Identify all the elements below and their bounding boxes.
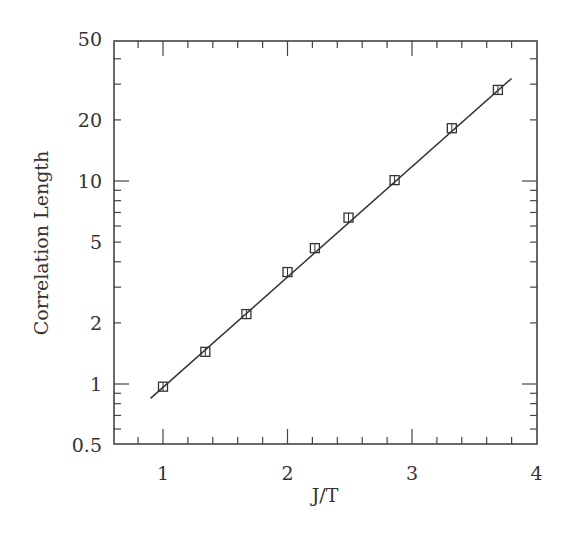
- y-tick-label: 20: [78, 109, 102, 131]
- y-tick-label: 1: [90, 373, 102, 395]
- y-tick-label: 50: [78, 28, 102, 50]
- fit-line: [151, 78, 512, 398]
- x-axis-title: J/T: [310, 484, 339, 506]
- y-tick-label: 10: [78, 170, 102, 192]
- x-tick-label: 2: [281, 462, 293, 484]
- y-axis-title: Correlation Length: [30, 151, 52, 335]
- x-tick-label: 4: [530, 462, 542, 484]
- y-tick-label: 0.5: [72, 434, 102, 456]
- y-tick-label: 5: [90, 231, 102, 253]
- chart: 12340.5125102050 J/T Correlation Length: [0, 0, 568, 538]
- y-tick-label: 2: [90, 312, 102, 334]
- x-tick-label: 1: [157, 462, 169, 484]
- x-tick-label: 3: [406, 462, 418, 484]
- tick-labels: 12340.5125102050: [72, 28, 543, 484]
